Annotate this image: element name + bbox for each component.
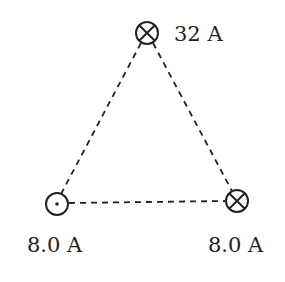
edge-right — [153, 43, 232, 191]
out-of-page-current-icon — [46, 193, 68, 215]
edge-bottom — [69, 201, 225, 203]
into-page-current-icon — [226, 190, 248, 212]
into-page-current-icon — [136, 22, 158, 44]
label-top-current: 32 A — [174, 22, 223, 46]
triangle-wire-diagram: 32 A 8.0 A 8.0 A — [0, 0, 285, 282]
edge-left — [61, 43, 141, 194]
label-bottom-left-current: 8.0 A — [27, 233, 83, 257]
label-bottom-right-current: 8.0 A — [208, 233, 264, 257]
triangle-edges — [61, 43, 232, 203]
